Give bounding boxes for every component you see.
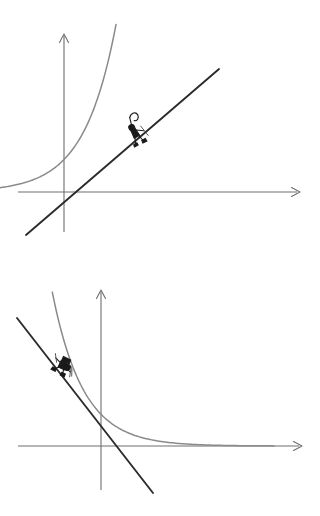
- x-axis-growth: [18, 188, 300, 197]
- decay-chart-svg: [0, 258, 320, 516]
- hiker-icon: [123, 111, 151, 147]
- exponential-decay-curve: [52, 292, 274, 446]
- skier-icon: [47, 352, 78, 381]
- tangent-line-decay: [17, 318, 153, 493]
- figure-stack: [0, 0, 320, 516]
- exponential-growth-curve: [0, 24, 116, 188]
- growth-chart-svg: [0, 0, 320, 258]
- y-axis-decay: [97, 290, 106, 490]
- chart-panel-growth: [0, 0, 320, 258]
- chart-panel-decay: [0, 258, 320, 516]
- tangent-line-growth: [26, 69, 219, 235]
